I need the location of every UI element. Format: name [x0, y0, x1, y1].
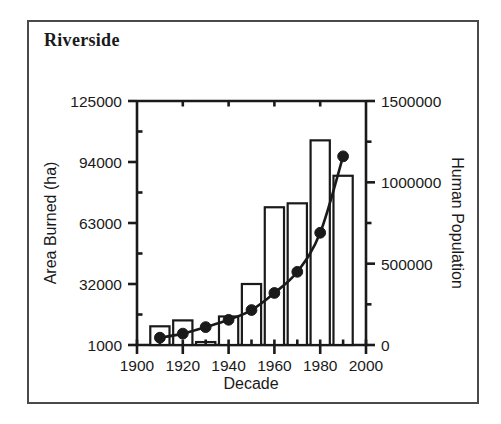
bar [265, 207, 284, 345]
data-point [246, 305, 257, 316]
y2-tick-label: 500000 [381, 256, 433, 273]
y-tick-label: 1000 [88, 337, 123, 354]
bar [333, 176, 352, 345]
data-point [315, 227, 326, 238]
y-tick-label: 125000 [70, 93, 122, 110]
x-tick-label: 1980 [303, 357, 338, 374]
x-tick-label: 1940 [211, 357, 246, 374]
y-tick-label: 94000 [79, 154, 122, 171]
data-point [223, 314, 234, 325]
y2-tick-label: 1500000 [381, 93, 442, 110]
y2-tick-label: 0 [381, 337, 390, 354]
bar [311, 140, 330, 345]
data-point [177, 328, 188, 339]
y-tick-label: 63000 [79, 215, 122, 232]
x-axis-label: Decade [223, 375, 278, 392]
data-point [338, 151, 349, 162]
x-tick-label: 1960 [257, 357, 292, 374]
y2-axis-label: Human Population [449, 157, 466, 289]
x-tick-label: 2000 [349, 357, 384, 374]
figure-root: Riverside 100032000630009400012500005000… [0, 0, 501, 424]
y-tick-label: 32000 [79, 276, 122, 293]
y-axis-label: Area Burned (ha) [42, 162, 59, 285]
data-point [200, 322, 211, 333]
x-tick-label: 1920 [166, 357, 201, 374]
x-tick-label: 1900 [120, 357, 155, 374]
chart-canvas: 1000320006300094000125000050000010000001… [0, 0, 501, 424]
y2-tick-label: 1000000 [381, 174, 442, 191]
data-point [269, 288, 280, 299]
data-point [292, 266, 303, 277]
